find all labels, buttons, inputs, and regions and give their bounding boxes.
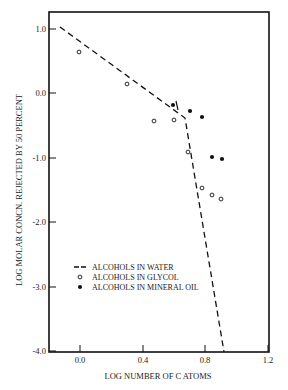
legend: ALCOHOLS IN WATER ALCOHOLS IN GLYCOL ALC… xyxy=(74,263,199,292)
data-point-oil xyxy=(210,155,214,159)
legend-label-oil: ALCOHOLS IN MINERAL OIL xyxy=(92,283,199,292)
legend-label-water: ALCOHOLS IN WATER xyxy=(92,263,174,272)
y-tick-label: -3.0 xyxy=(33,282,46,292)
x-tick-label: 1.2 xyxy=(263,355,274,365)
data-point-glycol xyxy=(200,186,204,190)
data-point-oil xyxy=(200,115,204,119)
legend-label-glycol: ALCOHOLS IN GLYCOL xyxy=(92,273,179,282)
series-oil-points xyxy=(171,103,224,161)
y-tick-label: 0.0 xyxy=(35,88,46,98)
x-tick-label: 0.0 xyxy=(75,355,86,365)
x-tick-label: 0.4 xyxy=(138,355,149,365)
data-point-oil xyxy=(220,157,224,161)
data-point-glycol xyxy=(77,50,81,54)
y-axis-title: LOG MOLAR CONCN. REJECTED BY 50 PERCENT xyxy=(14,93,24,286)
data-point-glycol xyxy=(210,193,214,197)
y-tick-label: -4.0 xyxy=(33,346,46,356)
chart-canvas: 1.0 0.0 -1.0 -2.0 -3.0 -4.0 0.0 0.4 0.8 … xyxy=(0,0,288,390)
data-point-glycol xyxy=(186,150,190,154)
series-water-line xyxy=(60,27,224,352)
data-point-glycol xyxy=(219,197,223,201)
series-glycol-points xyxy=(77,50,223,201)
data-point-oil xyxy=(188,109,192,113)
x-axis-title: LOG NUMBER OF C ATOMS xyxy=(104,371,211,381)
x-tick-label: 0.8 xyxy=(200,355,211,365)
x-axis-ticks xyxy=(80,345,268,352)
legend-open-circle-icon xyxy=(78,275,82,279)
data-point-glycol xyxy=(152,119,156,123)
y-axis-ticks xyxy=(49,29,56,351)
y-tick-label: -2.0 xyxy=(33,217,46,227)
y-axis-labels: 1.0 0.0 -1.0 -2.0 -3.0 -4.0 xyxy=(33,24,46,356)
data-point-glycol xyxy=(172,118,176,122)
data-point-glycol xyxy=(125,82,129,86)
series-water-line-crossmark xyxy=(176,101,178,110)
plot-frame xyxy=(49,12,269,352)
data-point-oil xyxy=(171,103,175,107)
y-tick-label: 1.0 xyxy=(35,24,46,34)
x-axis-labels: 0.0 0.4 0.8 1.2 xyxy=(75,355,274,365)
y-tick-label: -1.0 xyxy=(33,153,46,163)
legend-filled-circle-icon xyxy=(78,285,82,289)
